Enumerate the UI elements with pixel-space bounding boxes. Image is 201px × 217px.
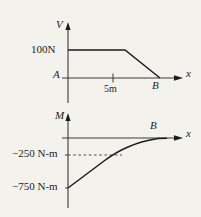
shear-horizontal-axis-arrow-icon (174, 75, 183, 81)
moment-diagram-group (62, 113, 183, 208)
shear-x-axis-label: x (186, 68, 191, 79)
shear-point-label-b: B (152, 80, 159, 91)
moment-curve (68, 138, 167, 188)
moment-vertical-axis-arrow-icon (65, 113, 70, 121)
shear-y-axis-label: V (56, 19, 63, 30)
moment-y-axis-label: M (55, 110, 64, 121)
shear-diagram-group (62, 22, 183, 103)
moment-x-axis-label: x (186, 128, 191, 139)
moment-value-label-750: −750 N-m (12, 181, 58, 192)
shear-point-label-a: A (53, 69, 60, 80)
shear-vertical-axis-arrow-icon (65, 22, 70, 30)
figure-container: V 100N A 5m B x M B x −250 N-m −750 N-m (0, 0, 201, 217)
moment-point-label-b: B (150, 120, 157, 131)
shear-distance-label-5m: 5m (104, 84, 117, 94)
moment-value-label-250: −250 N-m (12, 148, 58, 159)
shear-value-label-100n: 100N (31, 44, 55, 55)
shear-curve (68, 50, 160, 78)
moment-horizontal-axis-arrow-icon (174, 135, 183, 141)
